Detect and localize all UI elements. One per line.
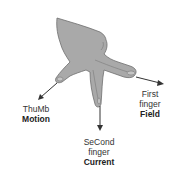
first-finger-label-name-2: finger [132,99,168,109]
thumbnail [57,77,63,81]
middle-fingernail [98,98,101,104]
first-finger-label-name: First [132,89,168,99]
thumb-label-quantity: Motion [16,114,56,124]
second-finger-label-quantity: Current [76,157,122,167]
first-finger-arrow [136,77,164,86]
second-finger-label-name-2: finger [76,147,122,157]
second-finger-label-name: SeCond [76,137,122,147]
first-finger-label-quantity: Field [132,109,168,119]
thumb-arrow [38,83,57,100]
thumb-label-name: ThuMb [16,104,56,114]
thumb-label: ThuMb Motion [16,104,56,124]
second-finger-label: SeCond finger Current [76,137,122,167]
hand-palm [55,18,136,107]
first-finger-label: First finger Field [132,89,168,119]
second-finger-arrow [97,106,103,131]
index-fingernail [127,71,135,75]
